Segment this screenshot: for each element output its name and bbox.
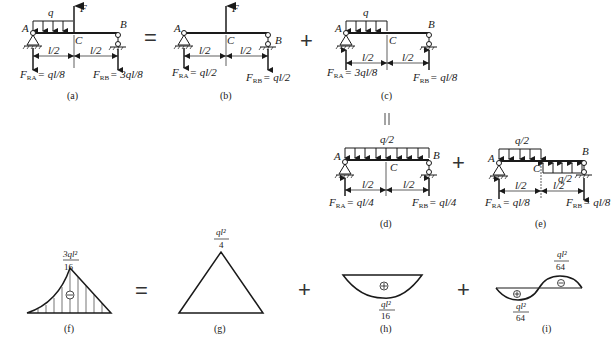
label-half-1: l/2 — [48, 44, 60, 56]
caption-i: (i) — [542, 323, 551, 335]
label-c: C — [390, 161, 398, 173]
reaction-a-label: FRA= ql/8 — [19, 68, 65, 82]
equals-operator: = — [135, 278, 148, 303]
reaction-a-label: FRA= ql/8 — [484, 196, 530, 210]
label-a: A — [173, 22, 181, 34]
panel-b: F A B C l/2 l/2 FRA= ql/2 FRB= ql/2 (b) — [171, 2, 291, 102]
label-a: A — [334, 22, 342, 34]
roller-support-b — [420, 161, 437, 179]
label-half-1: l/2 — [362, 51, 374, 63]
reaction-b-label: FRB= ql/2 — [245, 71, 291, 85]
peak-numerator: ql² — [381, 299, 391, 309]
label-b: B — [120, 18, 127, 30]
distributed-load-down-left — [499, 149, 541, 159]
label-half-1: l/2 — [515, 179, 527, 191]
label-c: C — [389, 34, 397, 46]
label-a: A — [487, 152, 495, 164]
label-a: A — [333, 150, 341, 162]
label-q: q — [363, 6, 369, 18]
reaction-a-label: FRA= ql/4 — [328, 196, 374, 210]
label-half-2: l/2 — [403, 178, 415, 190]
label-half-2: l/2 — [90, 44, 102, 56]
pin-support-a — [335, 160, 354, 179]
distributed-load-q-half — [345, 148, 429, 158]
reaction-b-label: FRB= 3ql/8 — [92, 68, 143, 82]
roller-support-b — [259, 33, 276, 51]
caption-e: (e) — [535, 218, 546, 230]
diagram-canvas: q F A B C l/2 l/2 F — [0, 0, 611, 348]
caption-d: (d) — [380, 218, 392, 230]
label-half-2: l/2 — [553, 179, 565, 191]
caption-g: (g) — [214, 323, 226, 335]
caption-b: (b) — [220, 90, 232, 102]
hatching — [38, 268, 102, 313]
label-b: B — [433, 149, 440, 161]
panel-a: q F A B C l/2 l/2 F — [19, 2, 143, 102]
plus-operator: + — [300, 28, 313, 53]
panel-c: q A B C l/2 l/2 FRA= 3ql/8 FRB= ql/8 (c) — [326, 6, 458, 102]
label-c: C — [533, 162, 541, 174]
panel-e: q/2 q/2 A B C l/2 l/2 — [484, 134, 611, 230]
caption-h: (h) — [380, 323, 392, 335]
label-b: B — [275, 34, 282, 46]
panel-i-moment-diagram: ql² 64 ql² 64 (i) — [496, 249, 582, 335]
roller-support-b — [420, 33, 437, 51]
panel-d: q/2 A B C l/2 l/2 FRA= ql/4 FRB= ql/4 (d… — [328, 133, 457, 230]
label-f: F — [231, 2, 239, 14]
right-numerator: ql² — [557, 249, 567, 259]
reaction-a-label: FRA= 3ql/8 — [326, 66, 378, 80]
moment-curve — [27, 268, 111, 313]
caption-a: (a) — [67, 90, 78, 102]
caption-f: (f) — [64, 323, 74, 335]
reaction-a-label: FRA= ql/2 — [171, 66, 217, 80]
peak-numerator: ql² — [216, 227, 226, 237]
distributed-load-q — [346, 21, 387, 31]
reaction-b-label: FRB= ql/8 — [412, 71, 458, 85]
label-a: A — [21, 22, 29, 34]
plus-operator: + — [452, 150, 465, 175]
label-q: q — [48, 6, 54, 18]
label-half-2: l/2 — [240, 44, 252, 56]
left-numerator: ql² — [516, 301, 526, 311]
peak-numerator: 3ql² — [62, 249, 78, 259]
moment-triangle — [179, 252, 263, 313]
peak-denominator: 16 — [381, 311, 391, 321]
equals-operator: = — [144, 25, 157, 50]
label-f: F — [79, 2, 87, 14]
plus-operator: + — [457, 277, 470, 302]
reaction-b-label: FRB= ql/8 — [565, 196, 611, 210]
label-c: C — [75, 34, 83, 46]
peak-denominator: 4 — [219, 240, 224, 250]
label-b: B — [582, 145, 589, 157]
parallel-equals-operator — [385, 113, 389, 125]
panel-f-moment-diagram: 3ql² 16 (f) — [27, 249, 111, 335]
label-b: B — [428, 18, 435, 30]
label-half-1: l/2 — [362, 178, 374, 190]
label-q-half: q/2 — [380, 133, 395, 145]
roller-support-b — [575, 161, 592, 179]
label-half-1: l/2 — [199, 44, 211, 56]
roller-support-b — [109, 33, 126, 51]
plus-operator: + — [298, 277, 311, 302]
distributed-load-q — [33, 21, 73, 31]
panel-h-moment-diagram: ql² 16 (h) — [343, 275, 422, 335]
left-denominator: 64 — [516, 313, 526, 323]
caption-c: (c) — [381, 90, 392, 102]
label-c: C — [227, 34, 235, 46]
right-denominator: 64 — [556, 262, 566, 272]
panel-g-moment-diagram: ql² 4 (g) — [179, 227, 263, 335]
reaction-b-label: FRB= ql/4 — [411, 196, 457, 210]
label-half-2: l/2 — [402, 51, 414, 63]
label-q-top: q/2 — [515, 134, 530, 146]
